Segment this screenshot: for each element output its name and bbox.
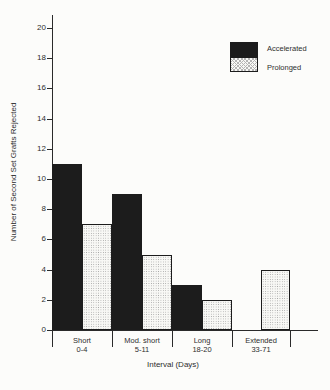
y-tick (47, 88, 52, 89)
y-tick-label: 10 (26, 174, 46, 184)
y-tick-label: 2 (26, 295, 46, 305)
y-tick (47, 149, 52, 150)
category-name: Short (50, 336, 114, 345)
category-range: 18-20 (170, 345, 234, 354)
y-tick (47, 119, 52, 120)
y-tick-label: 6 (26, 234, 46, 244)
category-label: Short0-4 (50, 336, 114, 354)
y-tick (47, 58, 52, 59)
x-axis-line (52, 330, 318, 331)
legend-swatch (230, 42, 258, 72)
y-tick-label: 14 (26, 114, 46, 124)
y-tick-label: 0 (26, 325, 46, 335)
category-label: Extended33-71 (229, 336, 293, 354)
y-tick-label: 18 (26, 53, 46, 63)
y-tick-label: 8 (26, 204, 46, 214)
bar-prolonged-long (202, 300, 232, 330)
y-tick-label: 16 (26, 83, 46, 93)
category-range: 33-71 (229, 345, 293, 354)
y-tick-label: 12 (26, 144, 46, 154)
category-name: Long (170, 336, 234, 345)
legend-label-accelerated: Accelerated (267, 44, 307, 54)
bar-prolonged-mod-short (142, 255, 172, 331)
category-range: 0-4 (50, 345, 114, 354)
bar-prolonged-extended (261, 270, 290, 330)
bar-prolonged-short (82, 224, 112, 330)
category-label: Long18-20 (170, 336, 234, 354)
y-tick-label: 4 (26, 265, 46, 275)
category-label: Mod. short5-11 (110, 336, 174, 354)
y-tick (47, 28, 52, 29)
category-name: Extended (229, 336, 293, 345)
x-axis-title: Interval (Days) (113, 360, 233, 369)
bar-accelerated-long (172, 285, 202, 330)
category-name: Mod. short (110, 336, 174, 345)
legend-label-prolonged: Prolonged (267, 63, 307, 73)
category-range: 5-11 (110, 345, 174, 354)
y-tick-label: 20 (26, 23, 46, 33)
y-axis-title: Number of Second Set Grafts Rejected (9, 103, 18, 242)
legend-swatch-prolonged (231, 57, 257, 71)
chart-figure: Number of Second Set Grafts Rejected 024… (0, 0, 330, 390)
legend-labels: Accelerated Prolonged (267, 42, 307, 73)
bar-accelerated-mod-short (112, 194, 142, 330)
bar-accelerated-short (52, 164, 82, 330)
legend-swatch-accelerated (231, 43, 257, 57)
